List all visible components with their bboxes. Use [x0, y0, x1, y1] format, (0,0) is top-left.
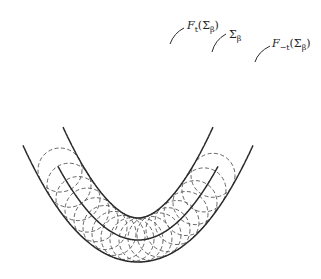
- label-text: F: [187, 19, 195, 32]
- label-sigma-beta: Σβ: [229, 28, 241, 43]
- label-text: Σ: [229, 28, 237, 41]
- label-sub: −t: [280, 43, 290, 52]
- label-ft-sigma: Ft(Σβ): [187, 19, 219, 34]
- label-text: ): [215, 19, 219, 32]
- dashed-circles: [38, 148, 235, 262]
- label-fmt-sigma: F−t(Σβ): [272, 37, 311, 52]
- label-text: (Σ: [290, 37, 302, 50]
- label-sub: β: [237, 34, 242, 43]
- label-text: ): [306, 37, 310, 50]
- label-leaders: [170, 28, 270, 62]
- label-text: (Σ: [198, 19, 210, 32]
- label-text: F: [272, 37, 280, 50]
- curve-fmt-inner: [63, 127, 213, 218]
